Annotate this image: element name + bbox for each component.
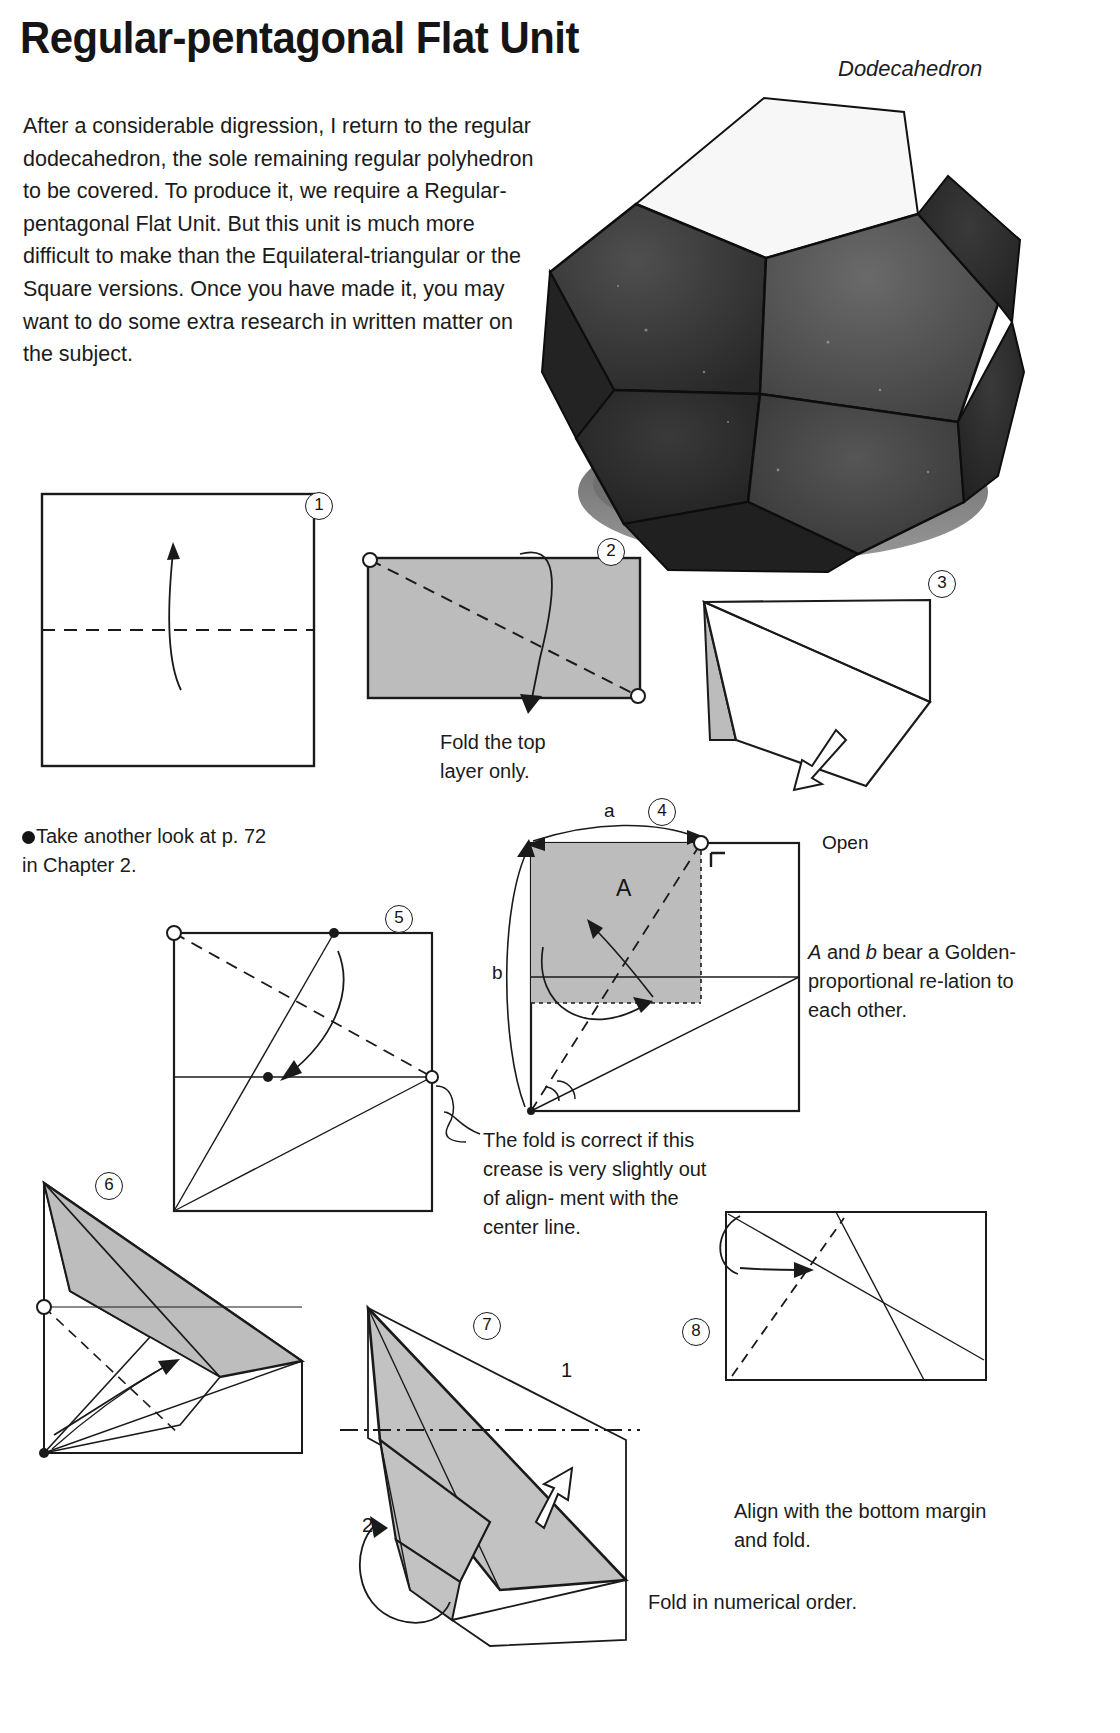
crease-line-5: line.	[544, 1216, 581, 1238]
step-3-diagram	[690, 590, 990, 820]
step-6-diagram	[30, 1175, 320, 1465]
golden-note-and: and	[827, 941, 866, 963]
golden-ratio-note: A and b bear a Golden-proportional re-la…	[808, 938, 1023, 1025]
step-number-5: 5	[385, 905, 413, 933]
bullet-icon	[22, 831, 35, 844]
step-number-6: 6	[95, 1172, 123, 1200]
see-also-line-1: Take another look at p. 72	[36, 825, 266, 847]
step-number-8: 8	[682, 1318, 710, 1346]
label-b: b	[492, 962, 503, 984]
fold-order-label-1: 1	[561, 1359, 572, 1382]
crease-line-1: The fold is correct if	[483, 1129, 658, 1151]
step-1-diagram	[38, 490, 328, 780]
fold-order-label-2: 2	[362, 1514, 373, 1537]
step-7-diagram	[340, 1290, 650, 1660]
dodecahedron-photo	[528, 72, 1028, 582]
step-2-diagram	[360, 548, 660, 718]
step-number-7: 7	[473, 1312, 501, 1340]
label-a: a	[604, 800, 615, 822]
step-8-diagram	[718, 1208, 1008, 1418]
step-number-2: 2	[597, 538, 625, 566]
step5-leader-curve	[432, 1080, 492, 1150]
fold-top-layer-caption: Fold the top layer only.	[440, 728, 620, 786]
open-caption: Open	[822, 832, 868, 854]
step-number-1: 1	[305, 492, 333, 520]
align-line-1: Align with the bottom	[734, 1500, 920, 1522]
step-number-4: 4	[648, 798, 676, 826]
golden-note-A: A	[808, 941, 821, 963]
see-also-note: Take another look at p. 72 in Chapter 2.	[22, 822, 352, 880]
see-also-line-2: in Chapter 2.	[22, 854, 137, 876]
numerical-order-caption: Fold in numerical order.	[648, 1588, 988, 1617]
label-A: A	[616, 875, 631, 902]
golden-note-b: b	[866, 941, 877, 963]
origami-instruction-page: Regular-pentagonal Flat Unit Dodecahedro…	[0, 0, 1120, 1733]
page-title: Regular-pentagonal Flat Unit	[20, 12, 579, 64]
step-4-diagram	[505, 835, 815, 1125]
step-number-3: 3	[928, 570, 956, 598]
crease-check-note: The fold is correct if this crease is ve…	[483, 1126, 723, 1242]
align-bottom-caption: Align with the bottom margin and fold.	[734, 1497, 1024, 1555]
intro-paragraph: After a considerable digression, I retur…	[23, 110, 543, 371]
